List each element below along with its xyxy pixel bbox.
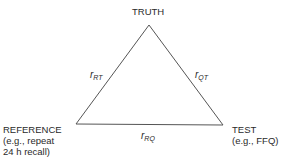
reference-label: REFERENCE (e.g., repeat 24 h recall) [3,124,62,157]
reference-example-2: 24 h recall) [3,146,62,157]
reference-example-1: (e.g., repeat [3,135,62,146]
rq-subscript: RQ [144,135,155,142]
truth-label: TRUTH [132,6,164,17]
edge-label-rt: rRT [90,70,103,83]
reference-title: REFERENCE [3,124,62,135]
test-label: TEST (e.g., FFQ) [232,124,278,146]
edge-label-rq: rRQ [141,131,155,144]
edge-label-qt: rQT [195,70,208,83]
test-example: (e.g., FFQ) [232,135,278,146]
rt-subscript: RT [93,74,102,81]
qt-subscript: QT [198,74,208,81]
test-title: TEST [232,124,278,135]
